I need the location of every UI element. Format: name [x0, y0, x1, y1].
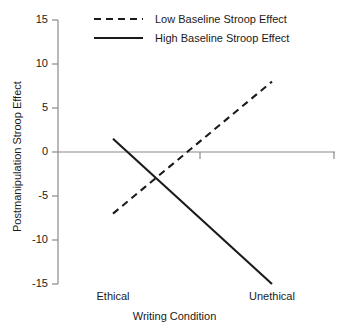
y-axis-ticks [52, 20, 58, 284]
y-tick-label-15: 15 [18, 14, 48, 25]
legend-label-high-baseline: High Baseline Stroop Effect [155, 33, 289, 44]
y-tick-label-10: 10 [18, 58, 48, 69]
chart-figure: 15 10 5 0 -5 -10 -15 Ethical Unethical W… [0, 0, 349, 328]
x-axis-title: Writing Condition [0, 311, 349, 322]
y-tick-label-minus-15: -15 [14, 278, 48, 289]
x-axis-ticks [200, 152, 334, 159]
chart-canvas [0, 0, 349, 328]
x-tick-label-ethical: Ethical [73, 291, 153, 302]
y-tick-label-minus-10: -10 [14, 234, 48, 245]
legend-label-low-baseline: Low Baseline Stroop Effect [155, 14, 287, 25]
series-line-low-baseline [113, 82, 272, 214]
series-line-high-baseline [113, 139, 272, 284]
x-tick-label-unethical: Unethical [227, 291, 317, 302]
y-axis-title: Postmanipulation Stroop Effect [12, 81, 23, 232]
